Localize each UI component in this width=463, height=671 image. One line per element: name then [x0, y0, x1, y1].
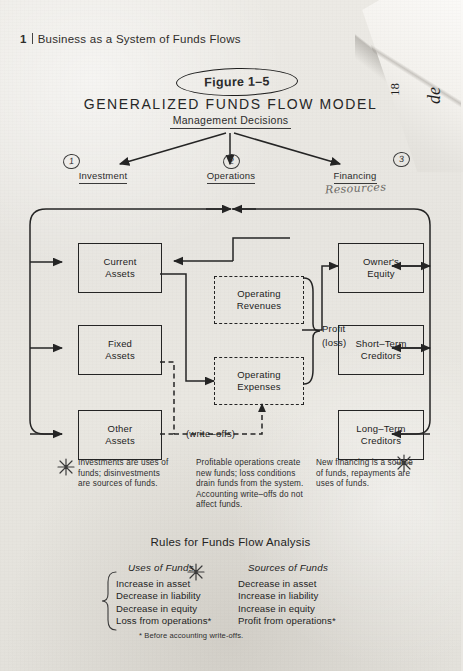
asterisk-icon-left — [58, 459, 74, 475]
rules-uses-item: Loss from operations* — [116, 615, 211, 627]
rules-sources-item: Increase in equity — [238, 603, 336, 615]
rules-uses-item: Decrease in equity — [116, 603, 211, 615]
annotation-financing: New financing is a source of funds, repa… — [316, 458, 416, 490]
rules-sources-item: Profit from operations* — [238, 615, 336, 627]
rules-uses-list: Increase in asset Decrease in liability … — [116, 578, 211, 628]
rules-uses-item: Increase in asset — [116, 578, 211, 590]
fold-text-partial: de — [424, 87, 445, 104]
annotation-investments: Investments are uses of funds; disinvest… — [78, 458, 173, 490]
rules-uses-item: Decrease in liability — [116, 590, 211, 602]
rules-sources-list: Decrease in asset Increase in liability … — [238, 578, 336, 628]
rules-uses-heading: Uses of Funds — [128, 562, 194, 573]
rules-sources-item: Decrease in asset — [238, 578, 336, 590]
annotation-operations: Profitable operations create new funds; … — [196, 458, 306, 511]
rules-sources-item: Increase in liability — [238, 590, 336, 602]
rules-footnote: * Before accounting write-offs. — [139, 631, 243, 640]
fold-text-number: 18 — [387, 83, 403, 96]
rules-sources-heading: Sources of Funds — [248, 562, 328, 573]
rules-title: Rules for Funds Flow Analysis — [0, 536, 461, 548]
